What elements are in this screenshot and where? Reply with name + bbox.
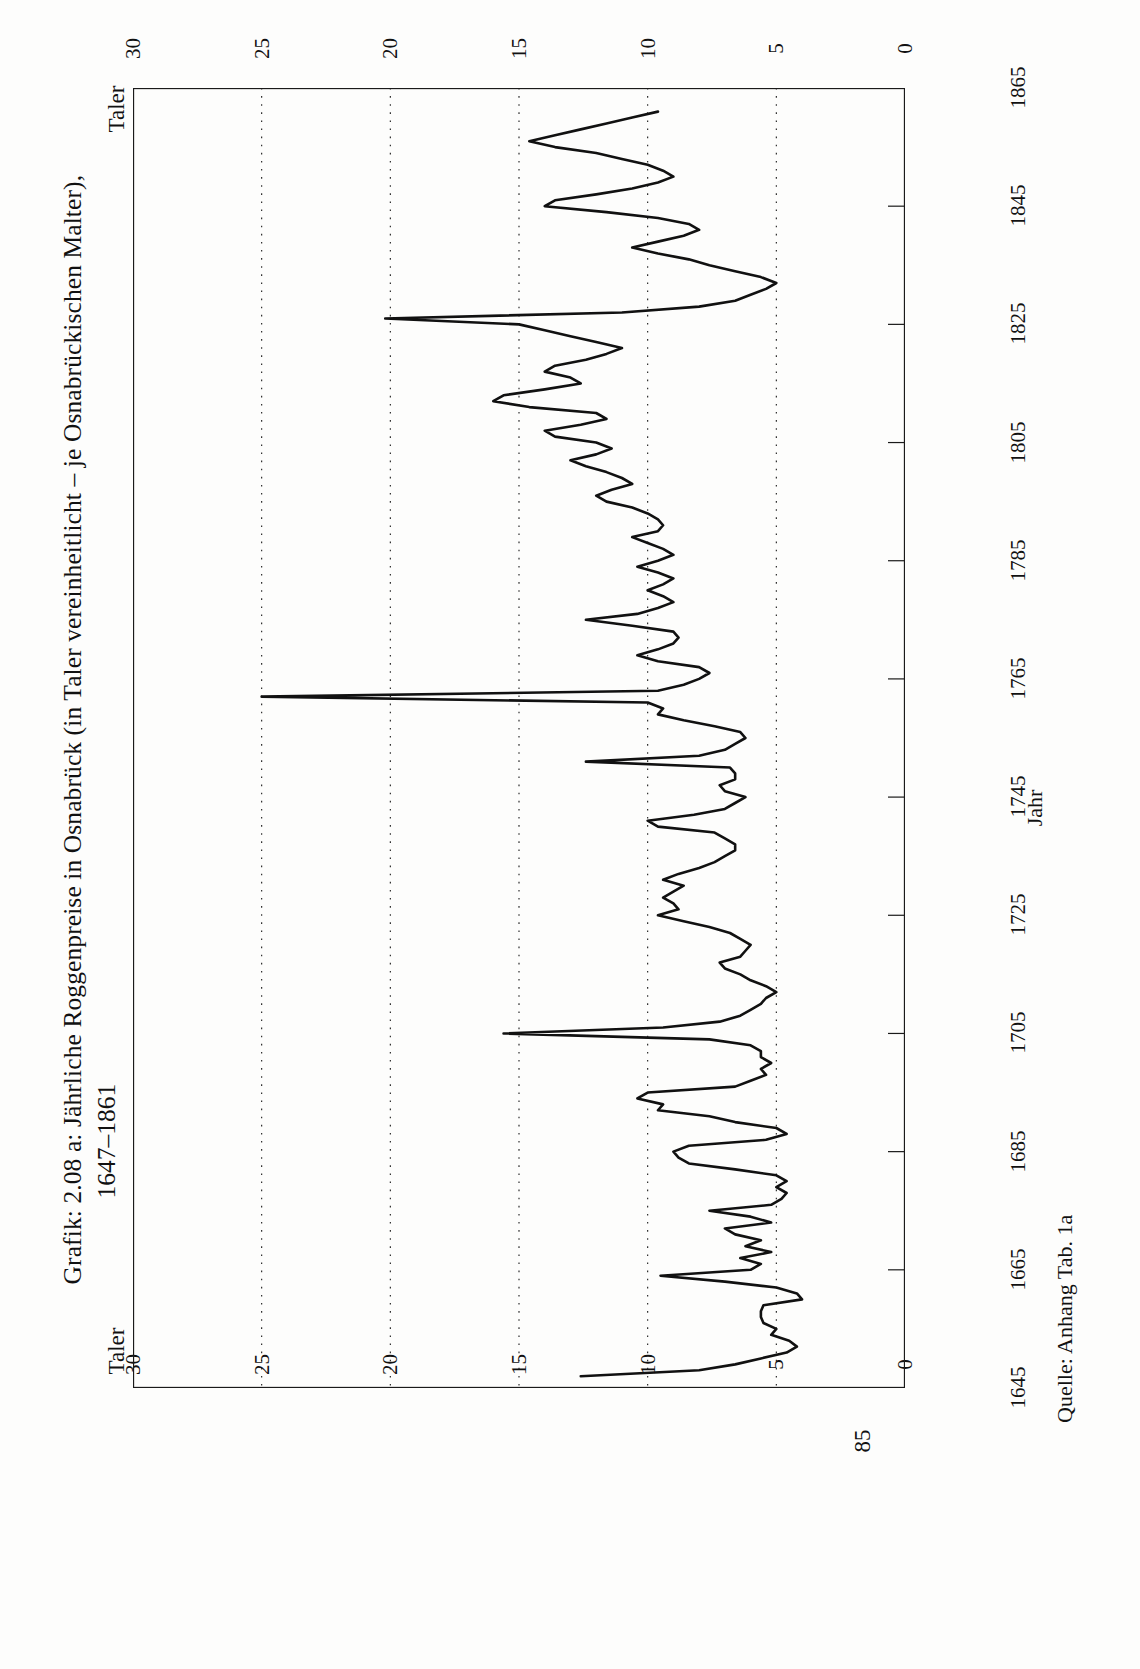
year-tick-1685: 1685 (1006, 1121, 1031, 1181)
year-tick-1705: 1705 (1006, 1003, 1031, 1063)
year-tick-1665: 1665 (1006, 1239, 1031, 1299)
year-tick-1645: 1645 (1006, 1358, 1031, 1418)
chart-svg (133, 88, 905, 1388)
price-series-line (262, 112, 802, 1377)
source-note: Quelle: Anhang Tab. 1a (1052, 1093, 1078, 1423)
chart-plot-area (133, 88, 905, 1388)
year-tick-1825: 1825 (1006, 294, 1031, 354)
year-tick-1845: 1845 (1006, 176, 1031, 236)
year-tick-1785: 1785 (1006, 530, 1031, 590)
year-tick-1765: 1765 (1006, 648, 1031, 708)
year-tick-1725: 1725 (1006, 885, 1031, 945)
year-axis-title: Jahr (1022, 778, 1048, 838)
year-tick-1865: 1865 (1006, 58, 1031, 118)
page-number: 85 (850, 1421, 876, 1461)
year-tick-1805: 1805 (1006, 412, 1031, 472)
figure-page: Grafik: 2.08 a: Jährliche Roggenpreise i… (0, 0, 1140, 1669)
